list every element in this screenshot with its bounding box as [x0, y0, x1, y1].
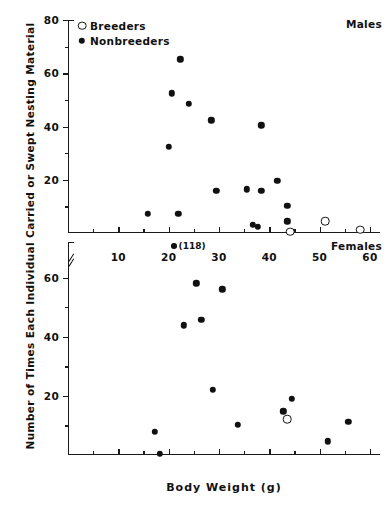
- males-y-tick-minor-10: [65, 206, 70, 207]
- x-tick-label-60: 60: [362, 251, 377, 263]
- outlier-annotation: (118): [171, 241, 206, 251]
- females-x-tick-40: [269, 449, 270, 455]
- y-axis-break-icon: [63, 252, 77, 268]
- males-x-tick-10: [118, 227, 119, 233]
- data-point-nonbreeders: [152, 429, 158, 435]
- females-x-tick-minor-25: [194, 451, 195, 455]
- females-x-tick-30: [219, 449, 220, 455]
- data-point-nonbreeders: [280, 408, 286, 414]
- data-point-nonbreeders: [186, 101, 192, 107]
- data-point-nonbreeders: [284, 203, 290, 209]
- open-circle-icon: [74, 20, 90, 32]
- females-x-tick-minor-45: [294, 451, 295, 455]
- males-x-tick-minor-5: [93, 229, 94, 233]
- scatter-figure: Number of Times Each Individual Carried …: [0, 0, 392, 511]
- legend-label-breeders: Breeders: [90, 20, 146, 32]
- females-x-tick-minor-15: [143, 451, 144, 455]
- data-point-breeders: [321, 217, 330, 226]
- data-point-nonbreeders: [258, 122, 264, 128]
- females-x-tick-minor-35: [244, 451, 245, 455]
- females-x-tick-50: [320, 449, 321, 455]
- data-point-breeders: [356, 226, 365, 235]
- males-x-tick-minor-15: [143, 229, 144, 233]
- legend: Breeders Nonbreeders: [74, 18, 170, 48]
- males-y-tick-label-60: 60: [0, 67, 68, 79]
- data-point-nonbreeders: [324, 438, 330, 444]
- females-x-tick-minor-5: [93, 451, 94, 455]
- x-tick-label-50: 50: [312, 251, 327, 263]
- data-point-breeders: [283, 415, 292, 424]
- panel-females: 204060102030405060: [68, 242, 380, 455]
- data-point-nonbreeders: [177, 56, 183, 62]
- males-x-tick-40: [269, 227, 270, 233]
- data-point-nonbreeders: [284, 218, 290, 224]
- males-x-axis: [68, 232, 380, 233]
- legend-item-breeders: Breeders: [74, 18, 170, 33]
- females-x-tick-10: [118, 449, 119, 455]
- females-y-tick-label-40: 40: [0, 331, 68, 343]
- data-point-breeders: [286, 227, 295, 236]
- filled-circle-icon: [74, 35, 90, 47]
- data-point-nonbreeders: [235, 421, 241, 427]
- females-y-axis: [68, 242, 69, 455]
- data-point-nonbreeders: [144, 210, 150, 216]
- males-x-tick-minor-55: [345, 229, 346, 233]
- data-point-nonbreeders: [157, 451, 163, 457]
- legend-label-nonbreeders: Nonbreeders: [90, 35, 170, 47]
- panel-tag-males: Males: [346, 18, 382, 30]
- data-point-nonbreeders: [243, 186, 249, 192]
- filled-circle-icon: [171, 243, 177, 249]
- females-y-tick-label-60: 60: [0, 272, 68, 284]
- females-x-tick-20: [169, 449, 170, 455]
- males-y-tick-minor-70: [65, 47, 70, 48]
- data-point-nonbreeders: [289, 396, 295, 402]
- outlier-label: (118): [179, 241, 206, 251]
- data-point-nonbreeders: [213, 188, 219, 194]
- males-y-tick-minor-50: [65, 100, 70, 101]
- data-point-nonbreeders: [255, 223, 261, 229]
- data-point-nonbreeders: [345, 418, 351, 424]
- females-x-tick-60: [370, 449, 371, 455]
- data-point-nonbreeders: [219, 286, 225, 292]
- x-axis-title: Body Weight (g): [68, 481, 380, 494]
- males-y-tick-label-20: 20: [0, 174, 68, 186]
- x-tick-label-20: 20: [161, 251, 176, 263]
- males-x-tick-50: [320, 227, 321, 233]
- females-y-tick-label-20: 20: [0, 390, 68, 402]
- x-tick-label-40: 40: [262, 251, 277, 263]
- x-tick-label-10: 10: [111, 251, 126, 263]
- males-x-tick-30: [219, 227, 220, 233]
- data-point-nonbreeders: [168, 90, 174, 96]
- data-point-nonbreeders: [175, 211, 181, 217]
- males-x-tick-60: [370, 227, 371, 233]
- females-y-tick-minor-30: [65, 366, 70, 367]
- data-point-nonbreeders: [165, 144, 171, 150]
- males-y-tick-label-80: 80: [0, 14, 68, 26]
- males-x-tick-minor-35: [244, 229, 245, 233]
- females-axis-top-cap: [68, 242, 74, 243]
- data-point-nonbreeders: [210, 386, 216, 392]
- females-y-tick-minor-10: [65, 425, 70, 426]
- females-x-axis: [68, 454, 380, 455]
- males-y-tick-label-40: 40: [0, 121, 68, 133]
- legend-item-nonbreeders: Nonbreeders: [74, 33, 170, 48]
- data-point-nonbreeders: [274, 178, 280, 184]
- females-x-tick-minor-55: [345, 451, 346, 455]
- males-x-tick-minor-25: [194, 229, 195, 233]
- x-tick-label-30: 30: [211, 251, 226, 263]
- data-point-nonbreeders: [181, 322, 187, 328]
- females-y-tick-minor-50: [65, 307, 70, 308]
- data-point-nonbreeders: [193, 280, 199, 286]
- panel-males: 20406080: [68, 20, 380, 233]
- panel-tag-females: Females: [331, 240, 382, 252]
- data-point-nonbreeders: [198, 317, 204, 323]
- males-y-tick-minor-30: [65, 153, 70, 154]
- data-point-nonbreeders: [258, 188, 264, 194]
- males-x-tick-20: [169, 227, 170, 233]
- data-point-nonbreeders: [208, 117, 214, 123]
